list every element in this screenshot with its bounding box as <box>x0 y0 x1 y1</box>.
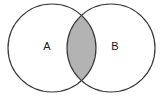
venn-canvas: A B <box>0 0 164 98</box>
set-a-label: A <box>43 40 51 52</box>
set-b-label: B <box>111 40 118 52</box>
venn-diagram-figure: A B <box>0 0 164 98</box>
